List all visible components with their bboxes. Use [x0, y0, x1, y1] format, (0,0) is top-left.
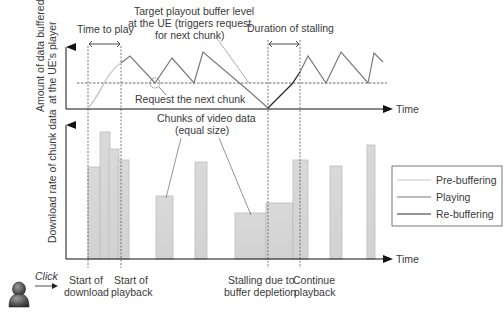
chunk-bar — [330, 166, 342, 259]
chunk-bar — [266, 203, 293, 259]
start-download-label-2: download — [64, 286, 109, 298]
playing-curve-2 — [300, 52, 383, 83]
prebuffering-curve — [88, 63, 121, 108]
target-leader-line — [216, 37, 249, 83]
chunk-bar — [156, 196, 173, 259]
chunks-label-1: Chunks of video data — [157, 112, 256, 124]
legend-label-rebuffering: Re-buffering — [436, 208, 494, 220]
chunk-bar — [88, 167, 100, 259]
continue-label-2: playback — [294, 286, 336, 298]
diagram-svg: Time to play Target playout buffer level… — [0, 0, 504, 312]
chunks-label-2: (equal size) — [175, 124, 229, 136]
stalling-label-2: buffer depletion — [224, 286, 296, 298]
click-label: Click — [35, 270, 58, 282]
chunks-leader-line-2 — [219, 138, 251, 215]
top-y-label-2: at the UE's player — [46, 21, 58, 104]
request-next-chunk-label: Request the next chunk — [135, 93, 246, 105]
chunk-bar — [367, 145, 375, 259]
legend-label-prebuffering: Pre-buffering — [436, 174, 497, 186]
bottom-x-arrow — [383, 255, 393, 263]
target-label-3: for next chunk) — [155, 29, 224, 41]
duration-of-stalling-label: Duration of stalling — [247, 22, 334, 34]
time-to-play-label: Time to play — [77, 23, 135, 35]
target-label-2: at the UE (triggers request — [128, 17, 251, 29]
chunk-bar — [235, 213, 266, 259]
stalling-label-1: Stalling due to — [228, 274, 295, 286]
chunk-bar — [293, 160, 308, 259]
events: Click Start of download Start of playbac… — [9, 270, 336, 307]
top-chart: Time to play Target playout buffer level… — [34, 0, 419, 115]
start-playback-label-2: playback — [111, 286, 153, 298]
user-icon — [9, 282, 29, 307]
bottom-y-label: Download rate of chunk data — [46, 109, 58, 243]
start-playback-label-1: Start of — [114, 274, 148, 286]
top-y-label-1: Amount of data buffered — [34, 0, 46, 112]
top-time-label: Time — [396, 103, 419, 115]
chunks-leader-line-1 — [166, 138, 181, 198]
diagram: Time to play Target playout buffer level… — [0, 0, 504, 312]
legend: Pre-buffering Playing Re-buffering — [392, 166, 502, 226]
start-download-label-1: Start of — [69, 274, 103, 286]
chunk-bar — [100, 132, 110, 259]
target-label-1: Target playout buffer level — [134, 5, 254, 17]
chunk-bar — [195, 162, 207, 259]
bottom-time-label: Time — [396, 253, 419, 265]
bar-group — [88, 132, 375, 259]
chunk-bar — [118, 160, 129, 259]
rebuffering-curve — [268, 72, 300, 108]
legend-label-playing: Playing — [436, 191, 471, 203]
continue-label-1: Continue — [293, 274, 335, 286]
top-x-arrow — [383, 105, 393, 113]
chunk-bar — [109, 149, 119, 259]
